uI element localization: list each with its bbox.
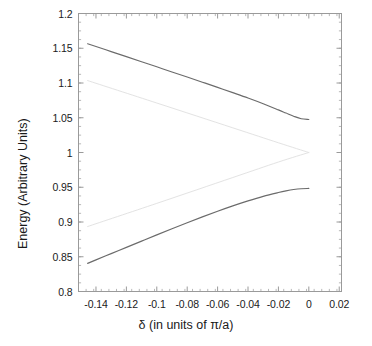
x-tick-label: -0.02 <box>267 298 290 310</box>
y-tick-label: 1.1 <box>58 77 72 89</box>
y-tick-label: 0.9 <box>58 216 72 228</box>
x-tick-label: -0.12 <box>115 298 138 310</box>
x-tick-label: 0 <box>306 298 312 310</box>
y-tick-label: 0.95 <box>52 181 72 193</box>
x-tick-label: -0.04 <box>236 298 259 310</box>
y-axis-title: Energy (Arbitrary Units) <box>16 118 30 249</box>
major-tick-marks <box>79 14 342 292</box>
y-tick-label: 1 <box>67 147 73 159</box>
x-tick-label: -0.1 <box>148 298 166 310</box>
chart-figure: 0.80.850.90.9511.051.11.151.2 -0.14-0.12… <box>0 0 372 346</box>
unperturbed-band-lines <box>88 81 309 227</box>
band-curves <box>88 44 309 264</box>
y-tick-label: 1.2 <box>58 8 72 20</box>
minor-tick-marks <box>79 14 342 292</box>
y-tick-label: 1.05 <box>52 112 72 124</box>
x-tick-label: 0.02 <box>329 298 349 310</box>
x-tick-label: -0.14 <box>84 298 107 310</box>
y-tick-label: 1.15 <box>52 42 72 54</box>
y-tick-label: 0.8 <box>58 286 72 298</box>
x-tick-label: -0.08 <box>175 298 198 310</box>
x-axis-title: δ (in units of π/a) <box>0 318 372 332</box>
plot-frame <box>79 14 342 292</box>
y-tick-label: 0.85 <box>52 251 72 263</box>
x-tick-label: -0.06 <box>206 298 229 310</box>
